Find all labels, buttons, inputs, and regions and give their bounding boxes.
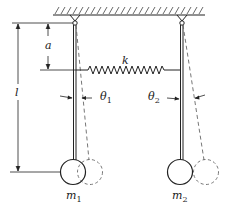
- right-pendulum-rod: [181, 25, 184, 160]
- angle-theta2-arrows: [167, 95, 205, 101]
- spring-constant-label: k: [122, 54, 129, 67]
- mass-m2-label: m2: [172, 189, 188, 204]
- dimension-l-label: l: [15, 86, 19, 99]
- angle-theta2-label: θ2: [148, 90, 160, 105]
- ceiling: [53, 7, 205, 15]
- mass-m1-label: m1: [66, 189, 82, 204]
- right-mass: [168, 160, 193, 185]
- coupled-pendulum-diagram: k a l θ1 θ2 m1 m2: [0, 0, 230, 205]
- angle-theta1-label: θ1: [100, 90, 112, 105]
- left-displaced-rod: [76, 25, 89, 160]
- right-mass-displaced: [194, 160, 219, 185]
- left-pendulum-rod: [74, 25, 77, 160]
- left-pivot-icon: [70, 15, 80, 25]
- dimension-a-label: a: [45, 39, 52, 52]
- spring: [76, 66, 180, 74]
- right-displaced-rod: [183, 25, 204, 160]
- left-mass: [61, 160, 86, 185]
- right-pivot-icon: [177, 15, 187, 25]
